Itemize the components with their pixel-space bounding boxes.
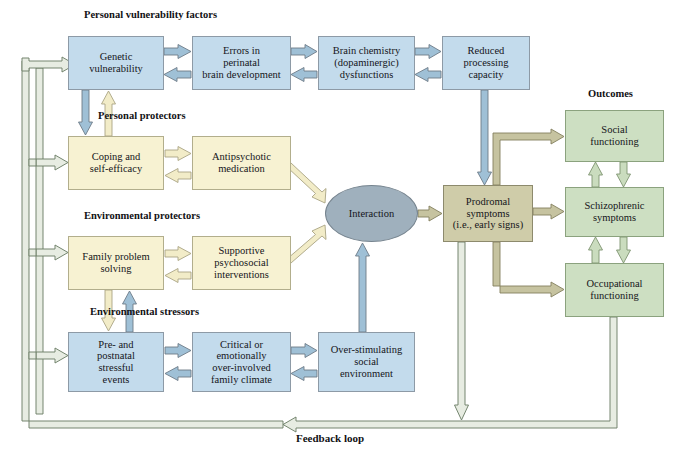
edge-feedback-to-family [29, 245, 68, 260]
node-critical-family-climate[interactable]: Critical oremotionallyover-involvedfamil… [192, 332, 291, 392]
section-label-environmental-protectors: Environmental protectors [84, 210, 200, 221]
edge-prodromal-to-schizophrenic [533, 204, 564, 219]
diagram-canvas: .ar-blue { fill:#9fc0d6; stroke:#6d7b87;… [0, 0, 683, 457]
edge-errors-to-brain [291, 45, 317, 59]
node-label: Over-stimulatingsocialenvironment [328, 344, 406, 379]
node-label: Reducedprocessingcapacity [461, 45, 512, 80]
edge-prodromal-feedback [455, 242, 469, 420]
section-label-environmental-stressors: Environmental stressors [90, 306, 199, 317]
section-label-personal-vulnerability: Personal vulnerability factors [84, 9, 217, 20]
edge-prodromal-to-occupational [493, 242, 564, 297]
section-label-personal-protectors: Personal protectors [98, 110, 186, 121]
node-label: Antipsychoticmedication [209, 151, 274, 175]
edge-antipsychotic-to-interaction [287, 163, 326, 203]
edge-genetic-to-errors [164, 45, 191, 59]
edge-schizophrenic-to-social [589, 162, 603, 187]
edge-brain-to-errors [291, 68, 317, 82]
node-label: Interaction [349, 208, 394, 219]
edge-genetic-to-coping [79, 90, 93, 135]
node-brain-chemistry[interactable]: Brain chemistry(dopaminergic)dysfunction… [318, 36, 415, 90]
edge-brain-to-reduced [415, 45, 441, 59]
node-genetic-vulnerability[interactable]: Geneticvulnerability [68, 36, 164, 90]
edge-feedback-to-prenatal [29, 348, 68, 363]
node-family-problem-solving[interactable]: Family problemsolving [68, 236, 164, 290]
node-social-functioning[interactable]: Socialfunctioning [565, 110, 664, 162]
node-label: Supportivepsychosocialinterventions [211, 245, 272, 280]
node-over-stimulating-environment[interactable]: Over-stimulatingsocialenvironment [318, 332, 415, 392]
edge-family-to-supportive [165, 247, 191, 261]
edge-occupational-to-schizophrenic [589, 237, 603, 263]
edge-critical-to-overstim [291, 344, 317, 358]
edge-prenatal-to-critical [165, 344, 191, 358]
edge-critical-to-prenatal [165, 367, 191, 381]
node-label: Schizophrenicsymptoms [581, 200, 647, 224]
node-interaction[interactable]: Interaction [325, 185, 418, 242]
edge-reduced-to-brain [415, 68, 441, 82]
node-schizophrenic-symptoms[interactable]: Schizophrenicsymptoms [565, 187, 664, 237]
edge-supportive-to-interaction [287, 225, 326, 263]
edge-interaction-to-prodromal [418, 206, 442, 221]
node-label: Brain chemistry(dopaminergic)dysfunction… [330, 45, 403, 80]
feedback-bus-inner-trunk [36, 68, 43, 414]
node-label: Coping andself-efficacy [87, 151, 145, 175]
node-supportive-psychosocial[interactable]: Supportivepsychosocialinterventions [192, 236, 291, 290]
node-label: Family problemsolving [79, 251, 152, 275]
node-label: Prodromalsymptoms(i.e., early signs) [450, 196, 526, 231]
edge-coping-to-antipsychotic [165, 147, 191, 161]
node-antipsychotic-medication[interactable]: Antipsychoticmedication [192, 136, 291, 190]
node-label: Socialfunctioning [587, 124, 641, 148]
edge-overstim-to-critical [291, 367, 317, 381]
edge-overstim-to-interaction [356, 243, 370, 332]
node-prodromal-symptoms[interactable]: Prodromalsymptoms(i.e., early signs) [443, 185, 533, 242]
node-pre-postnatal-stress[interactable]: Pre- andpostnatalstressfulevents [68, 332, 164, 392]
feedback-loop-caption: Feedback loop [296, 432, 364, 444]
edge-antipsychotic-to-coping [165, 169, 191, 183]
node-coping-self-efficacy[interactable]: Coping andself-efficacy [68, 136, 164, 190]
node-occupational-functioning[interactable]: Occupationalfunctioning [565, 263, 664, 317]
node-errors-perinatal[interactable]: Errors inperinatalbrain development [192, 36, 291, 90]
node-label: Critical oremotionallyover-involvedfamil… [208, 339, 275, 386]
edge-supportive-to-family [165, 269, 191, 283]
node-label: Pre- andpostnatalstressfulevents [94, 339, 138, 386]
edge-errors-to-genetic [164, 68, 191, 82]
edge-schizophrenic-to-occupational [617, 237, 631, 263]
edge-social-to-schizophrenic [617, 162, 631, 187]
edge-vulnerability-to-interaction [478, 90, 492, 185]
node-reduced-processing[interactable]: Reducedprocessingcapacity [442, 36, 530, 90]
node-label: Errors inperinatalbrain development [199, 45, 283, 80]
edge-feedback-to-coping [29, 155, 68, 170]
node-label: Geneticvulnerability [86, 51, 146, 75]
edge-prodromal-to-social [493, 129, 564, 185]
section-label-outcomes: Outcomes [588, 88, 633, 99]
node-label: Occupationalfunctioning [584, 278, 646, 302]
